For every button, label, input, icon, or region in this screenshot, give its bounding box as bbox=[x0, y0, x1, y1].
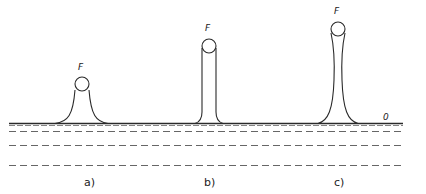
depth-lines bbox=[9, 132, 403, 166]
rod-circle-a bbox=[75, 77, 89, 91]
meniscus-a bbox=[55, 90, 108, 124]
force-label-a: F bbox=[78, 62, 84, 72]
caption-a: a) bbox=[84, 176, 95, 189]
force-label-c: F bbox=[334, 6, 340, 16]
caption-b: b) bbox=[204, 176, 215, 189]
column-c bbox=[318, 33, 358, 124]
surface-label: 0 bbox=[383, 112, 389, 122]
column-b bbox=[195, 48, 223, 124]
caption-c: c) bbox=[334, 176, 344, 189]
rod-circle-c bbox=[331, 22, 345, 36]
force-label-b: F bbox=[205, 23, 211, 33]
liquid-surface bbox=[9, 124, 403, 126]
meniscus-diagram: F a) F b) F c) 0 bbox=[0, 0, 426, 194]
rod-circle-b bbox=[202, 39, 216, 53]
panel-b: F b) bbox=[195, 23, 223, 189]
panel-c: F c) bbox=[318, 6, 358, 189]
